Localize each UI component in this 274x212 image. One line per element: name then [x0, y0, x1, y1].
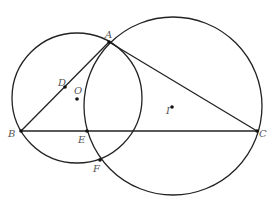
label-f: F: [92, 163, 101, 174]
point-e: [85, 129, 89, 133]
points: [19, 40, 259, 162]
point-b: [19, 129, 23, 133]
label-d: D: [57, 77, 66, 88]
label-e: E: [77, 134, 86, 145]
segment-AC: [109, 42, 257, 131]
label-i: I: [165, 105, 171, 116]
point-a: [107, 40, 111, 44]
label-a: A: [104, 29, 112, 40]
label-o: O: [74, 85, 82, 96]
geometry-diagram: ABCDEFOI: [0, 0, 274, 212]
labels: ABCDEFOI: [7, 29, 267, 174]
point-f: [98, 158, 102, 162]
circles: [12, 17, 262, 195]
point-o: [75, 97, 79, 101]
label-c: C: [259, 128, 267, 139]
label-b: B: [7, 128, 15, 139]
point-i: [170, 105, 174, 109]
